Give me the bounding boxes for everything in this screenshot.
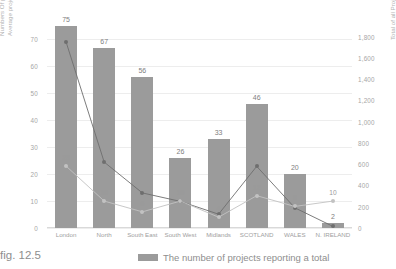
y-axis-right-tick: 800 [358, 139, 390, 146]
y-axis-right-tick: 400 [358, 182, 390, 189]
bar-value-label: 75 [62, 16, 70, 23]
y-axis-right-tick: 0 [358, 225, 390, 232]
point-value-label: 10 [329, 189, 336, 196]
x-axis-tick-label: North [97, 231, 112, 238]
y-axis-right-tick: 1,600 [358, 54, 390, 61]
y-axis-left-tick: 0 [14, 225, 38, 232]
line-series-layer [47, 26, 352, 228]
data-point [255, 194, 259, 198]
x-axis-tick-label: Midlands [206, 231, 231, 238]
y-axis-left-tick: 50 [14, 90, 38, 97]
y-axis-right-tick: 1,800 [358, 33, 390, 40]
point-value-label: 10 [177, 189, 184, 196]
point-value-label: 4 [217, 205, 221, 212]
legend-label: The number of projects reporting a total [163, 252, 329, 263]
point-value-label: 8 [293, 194, 297, 201]
data-point [217, 215, 221, 219]
grid-line [47, 228, 352, 229]
y-axis-right-tick: 1,000 [358, 118, 390, 125]
y-axis-left-title-line1: Numbers Of projects reporting & [0, 0, 6, 36]
y-axis-left-tick: 40 [14, 117, 38, 124]
y-axis-right-tick: 1,200 [358, 97, 390, 104]
y-axis-left-tick: 10 [14, 198, 38, 205]
y-axis-left-title-line2: Average project total (£ million) [6, 0, 14, 36]
x-axis-tick-label: London [56, 231, 77, 238]
data-point [102, 160, 106, 164]
plot-area: 7567562633462022310610412810 [47, 26, 352, 228]
y-axis-left-tick: 30 [14, 144, 38, 151]
x-axis-tick-label: South West [165, 231, 197, 238]
x-axis-tick-label: WALES [284, 231, 305, 238]
data-point [140, 191, 144, 195]
point-value-label: 23 [62, 154, 69, 161]
legend-swatch-icon [138, 254, 158, 261]
point-value-label: 6 [140, 199, 144, 206]
y-axis-left-tick: 60 [14, 63, 38, 70]
y-axis-right-tick: 200 [358, 203, 390, 210]
y-axis-right-tick: 600 [358, 161, 390, 168]
point-value-label: 12 [253, 183, 260, 190]
data-point [64, 40, 68, 44]
data-point [293, 204, 297, 208]
data-point [331, 199, 335, 203]
data-point [64, 164, 68, 168]
point-value-label: 10 [101, 189, 108, 196]
x-axis-tick-label: South East [127, 231, 157, 238]
data-point [255, 164, 259, 168]
data-point [178, 199, 182, 203]
y-axis-right-title: Total of all Project Values (£ million) [389, 0, 396, 40]
figure-caption: fig. 12.5 [0, 249, 41, 261]
legend: The number of projects reporting a total [138, 252, 329, 263]
data-point [102, 199, 106, 203]
data-point [140, 210, 144, 214]
y-axis-left-title: Numbers Of projects reporting & Average … [0, 0, 13, 36]
y-axis-left-tick: 20 [14, 171, 38, 178]
x-axis-tick-label: N. IRELAND [316, 231, 351, 238]
x-axis-tick-label: SCOTLAND [240, 231, 274, 238]
y-axis-right-tick: 1,400 [358, 76, 390, 83]
y-axis-left-tick: 70 [14, 36, 38, 43]
data-point [331, 224, 335, 228]
